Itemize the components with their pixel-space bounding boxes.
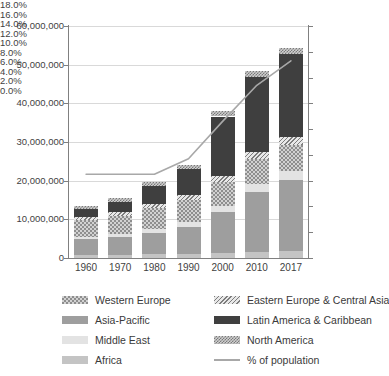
left-axis-label: 30,000,000 (0, 137, 64, 147)
legend-column-left: Western Europe Asia-Pacific Middle East … (62, 290, 171, 370)
right-axis-line (308, 25, 309, 259)
bar-segment-africa-2017 (279, 251, 303, 258)
bar-segment-western-europe-2017 (279, 145, 303, 171)
western-europe-swatch (62, 296, 88, 304)
bar-segment-asia-pacific-1960 (74, 239, 98, 255)
left-axis-label: 60,000,000 (0, 21, 64, 31)
bar-group (69, 26, 308, 258)
bar-1970 (108, 198, 132, 258)
legend-label: Latin America & Caribbean (247, 315, 372, 326)
right-axis-label: 0.0% (0, 86, 60, 96)
bar-1960 (74, 206, 98, 258)
right-tick (309, 181, 313, 182)
bar-segment-middle-east-1960 (74, 237, 98, 239)
percent-line-swatch (214, 359, 240, 361)
legend-label: % of population (247, 355, 319, 366)
legend-item-western-europe: Western Europe (62, 290, 171, 310)
bar-segment-north-america-2010 (245, 71, 269, 77)
bar-2000 (211, 111, 235, 258)
bar-segment-eastern-europe-2000 (211, 176, 235, 182)
bar-segment-middle-east-2000 (211, 206, 235, 212)
bar-segment-north-america-1970 (108, 198, 132, 202)
right-tick (309, 206, 313, 207)
right-tick (309, 232, 313, 233)
right-tick (309, 258, 313, 259)
x-axis-label-2017: 2017 (271, 263, 311, 273)
bar-segment-latin-america-2000 (211, 117, 235, 177)
bar-1990 (177, 165, 201, 258)
bar-segment-western-europe-1970 (108, 216, 132, 235)
legend-label: Eastern Europe & Central Asia (247, 295, 389, 306)
bar-segment-asia-pacific-1970 (108, 237, 132, 255)
left-axis-label: 20,000,000 (0, 176, 64, 186)
bar-segment-north-america-1990 (177, 165, 201, 170)
bar-segment-western-europe-2010 (245, 159, 269, 184)
legend-item-percent-of-population: % of population (214, 350, 389, 370)
latin-america-swatch (214, 316, 240, 324)
left-axis-label: 0 (0, 253, 64, 263)
bar-segment-eastern-europe-1970 (108, 212, 132, 216)
bar-segment-latin-america-2010 (245, 77, 269, 152)
right-tick (309, 129, 313, 130)
legend-column-right: Eastern Europe & Central Asia Latin Amer… (214, 290, 389, 370)
bar-segment-north-america-1980 (142, 182, 166, 186)
bar-segment-latin-america-1980 (142, 186, 166, 204)
right-tick (309, 103, 313, 104)
north-america-swatch (214, 336, 240, 344)
bar-segment-middle-east-1990 (177, 222, 201, 227)
left-axis-label: 10,000,000 (0, 214, 64, 224)
bar-segment-eastern-europe-2010 (245, 152, 269, 159)
bar-segment-middle-east-2010 (245, 184, 269, 192)
left-axis-line (68, 25, 69, 259)
legend-item-eastern-europe: Eastern Europe & Central Asia (214, 290, 389, 310)
legend-item-north-america: North America (214, 330, 389, 350)
bar-segment-north-america-1960 (74, 206, 98, 209)
bar-segment-latin-america-1990 (177, 169, 201, 194)
bar-segment-western-europe-1980 (142, 208, 166, 229)
left-tick (64, 258, 68, 259)
right-tick (309, 155, 313, 156)
legend-label: Asia-Pacific (95, 315, 150, 326)
africa-swatch (62, 356, 88, 364)
right-tick (309, 52, 313, 53)
bar-segment-western-europe-2000 (211, 182, 235, 206)
legend-item-middle-east: Middle East (62, 330, 171, 350)
bar-2017 (279, 48, 303, 258)
legend-label: Western Europe (95, 295, 171, 306)
right-tick (309, 26, 313, 27)
bar-segment-eastern-europe-2017 (279, 137, 303, 144)
left-axis-label: 40,000,000 (0, 98, 64, 108)
bar-2010 (245, 71, 269, 258)
bar-segment-western-europe-1960 (74, 220, 98, 237)
bar-segment-eastern-europe-1960 (74, 217, 98, 220)
bar-segment-asia-pacific-1980 (142, 233, 166, 254)
left-tick (64, 181, 68, 182)
legend-item-africa: Africa (62, 350, 171, 370)
legend-label: Middle East (95, 335, 150, 346)
eastern-europe-swatch (214, 296, 240, 304)
bar-segment-middle-east-2017 (279, 171, 303, 180)
bar-segment-latin-america-1960 (74, 209, 98, 216)
left-tick (64, 65, 68, 66)
right-tick (309, 78, 313, 79)
middle-east-swatch (62, 336, 88, 344)
left-axis-label: 50,000,000 (0, 60, 64, 70)
bar-segment-asia-pacific-1990 (177, 227, 201, 254)
bottom-axis-line (68, 258, 309, 259)
plot-area (69, 26, 308, 258)
bar-segment-asia-pacific-2000 (211, 212, 235, 253)
bar-segment-middle-east-1970 (108, 234, 132, 237)
legend-item-asia-pacific: Asia-Pacific (62, 310, 171, 330)
bar-segment-eastern-europe-1990 (177, 195, 201, 200)
legend-label: North America (247, 335, 314, 346)
left-tick (64, 26, 68, 27)
bar-segment-asia-pacific-2010 (245, 192, 269, 252)
left-tick (64, 219, 68, 220)
legend-item-latin-america: Latin America & Caribbean (214, 310, 389, 330)
chart-legend: Western Europe Asia-Pacific Middle East … (62, 290, 380, 372)
legend-label: Africa (95, 355, 122, 366)
left-tick (64, 103, 68, 104)
bar-segment-north-america-2017 (279, 48, 303, 55)
bar-segment-north-america-2000 (211, 111, 235, 116)
